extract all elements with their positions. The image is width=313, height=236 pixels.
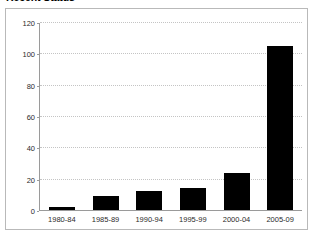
x-axis-ticks-group: 1980-841985-891990-941995-992000-042005-… (40, 215, 302, 224)
bar-slot (84, 23, 128, 210)
bar-slot (215, 23, 259, 210)
y-axis-tick-mark (37, 54, 39, 55)
figure-frame: 020406080100120 1980-841985-891990-94199… (5, 8, 308, 230)
bar-slot (258, 23, 302, 210)
y-axis-tick-mark (37, 180, 39, 181)
bar-slot (171, 23, 215, 210)
bar[interactable] (180, 188, 206, 210)
chart-title: Recent Status (6, 0, 75, 3)
bar[interactable] (224, 173, 250, 210)
y-axis-tick-label: 20 (27, 175, 35, 184)
x-axis-tick-label: 2000-04 (215, 215, 259, 224)
bar[interactable] (93, 196, 119, 210)
bars-group (40, 23, 302, 210)
y-axis-tick-label: 100 (22, 50, 35, 59)
x-axis-tick-label: 1990-94 (127, 215, 171, 224)
y-axis-tick-label: 40 (27, 144, 35, 153)
x-axis-tick-label: 1995-99 (171, 215, 215, 224)
x-axis-tick-label: 1980-84 (40, 215, 84, 224)
bar-slot (127, 23, 171, 210)
bar-slot (40, 23, 84, 210)
x-axis-tick-label: 2005-09 (258, 215, 302, 224)
x-axis-line (39, 210, 302, 211)
y-axis-tick-label: 80 (27, 81, 35, 90)
bar[interactable] (267, 46, 293, 210)
plot-area: 020406080100120 (39, 23, 302, 211)
bar[interactable] (136, 191, 162, 210)
y-axis-tick-mark (37, 211, 39, 212)
y-axis-tick-label: 60 (27, 113, 35, 122)
y-axis-tick-mark (37, 86, 39, 87)
y-axis-tick-label: 120 (22, 19, 35, 28)
y-axis-tick-mark (37, 117, 39, 118)
bar[interactable] (49, 207, 75, 210)
y-axis-tick-label: 0 (31, 207, 35, 216)
x-axis-tick-label: 1985-89 (84, 215, 128, 224)
y-axis-tick-mark (37, 148, 39, 149)
y-axis-tick-mark (37, 23, 39, 24)
